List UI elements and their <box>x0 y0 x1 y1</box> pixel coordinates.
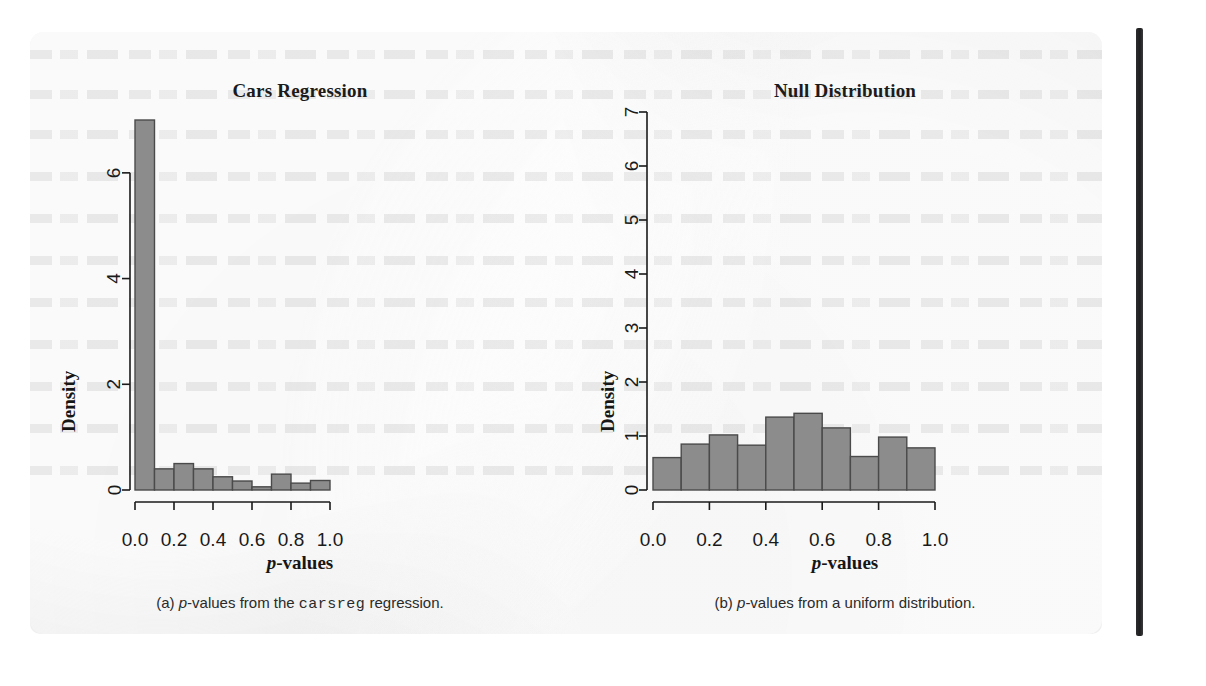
histogram-bar <box>252 487 272 490</box>
y-axis-tick-label: 3 <box>621 323 642 334</box>
histogram-bar <box>213 477 233 490</box>
y-axis-tick-label: 4 <box>621 268 642 279</box>
histogram-bar <box>653 458 681 490</box>
chart-a-x-axis-label-rest: -values <box>276 552 333 573</box>
histogram-bar <box>681 444 709 490</box>
chart-a-plot: 02460.00.20.40.60.81.0 <box>30 32 570 592</box>
chart-b-x-axis-label: p-values <box>575 552 1115 574</box>
chart-b-caption: (b) p-values from a uniform distribution… <box>575 594 1115 611</box>
x-axis-tick-label: 0.6 <box>809 529 835 550</box>
histogram-bar <box>709 435 737 490</box>
x-axis-tick-label: 0.4 <box>753 529 780 550</box>
chart-b-x-axis-label-italic: p <box>812 552 822 573</box>
histogram-bar <box>794 413 822 490</box>
chart-b-svg: 012345670.00.20.40.60.81.0 <box>575 32 1115 592</box>
y-axis-tick-label: 6 <box>104 168 125 179</box>
x-axis-tick-label: 1.0 <box>317 529 343 550</box>
histogram-bar <box>135 120 155 490</box>
chart-a-x-axis-label: p-values <box>30 552 570 574</box>
y-axis-tick-label: 7 <box>621 107 642 118</box>
x-axis-tick-label: 0.4 <box>200 529 227 550</box>
y-axis-tick-label: 4 <box>104 273 125 284</box>
x-axis-tick-label: 0.2 <box>161 529 187 550</box>
histogram-bar <box>879 437 907 490</box>
y-axis-tick-label: 0 <box>621 485 642 496</box>
histogram-bar <box>194 469 214 490</box>
chart-a-svg: 02460.00.20.40.60.81.0 <box>30 32 570 592</box>
histogram-bar <box>272 474 292 490</box>
histogram-bar <box>850 457 878 490</box>
x-axis-tick-label: 0.0 <box>122 529 148 550</box>
y-axis-tick-label: 2 <box>104 379 125 390</box>
page-binding-bar <box>1136 28 1143 636</box>
y-axis-tick-label: 6 <box>621 161 642 172</box>
histogram-bar <box>174 464 194 490</box>
y-axis-tick-label: 2 <box>621 377 642 388</box>
chart-b-x-axis-label-rest: -values <box>821 552 878 573</box>
histogram-bar <box>291 483 311 490</box>
x-axis-tick-label: 0.2 <box>696 529 722 550</box>
figure-panel-a: Cars Regression Density 02460.00.20.40.6… <box>30 32 570 592</box>
x-axis-tick-label: 0.8 <box>865 529 891 550</box>
chart-a-x-axis-label-italic: p <box>267 552 277 573</box>
histogram-bar <box>233 481 253 490</box>
caption-b-prefix: (b) <box>715 594 738 611</box>
caption-a-italic: p <box>179 594 187 611</box>
histogram-bar <box>311 480 331 490</box>
histogram-bar <box>766 417 794 490</box>
x-axis-tick-label: 0.6 <box>239 529 265 550</box>
x-axis-tick-label: 1.0 <box>922 529 948 550</box>
y-axis-tick-label: 1 <box>621 431 642 442</box>
caption-a-code: carsreg <box>299 596 366 613</box>
histogram-bar <box>155 469 175 490</box>
histogram-bar <box>822 428 850 490</box>
x-axis-tick-label: 0.0 <box>640 529 666 550</box>
histogram-bar <box>907 448 935 490</box>
scanned-page: Cars Regression Density 02460.00.20.40.6… <box>0 0 1206 686</box>
caption-a-suffix: regression. <box>365 594 443 611</box>
chart-b-plot: 012345670.00.20.40.60.81.0 <box>575 32 1115 592</box>
caption-b-mid: -values from a uniform distribution. <box>745 594 975 611</box>
caption-a-prefix: (a) <box>156 594 179 611</box>
caption-a-mid: -values from the <box>187 594 299 611</box>
y-axis-tick-label: 0 <box>104 485 125 496</box>
histogram-bar <box>738 445 766 490</box>
figure-panel-b: Null Distribution Density 012345670.00.2… <box>575 32 1115 592</box>
x-axis-tick-label: 0.8 <box>278 529 304 550</box>
y-axis-tick-label: 5 <box>621 215 642 226</box>
chart-a-caption: (a) p-values from the carsreg regression… <box>30 594 570 613</box>
